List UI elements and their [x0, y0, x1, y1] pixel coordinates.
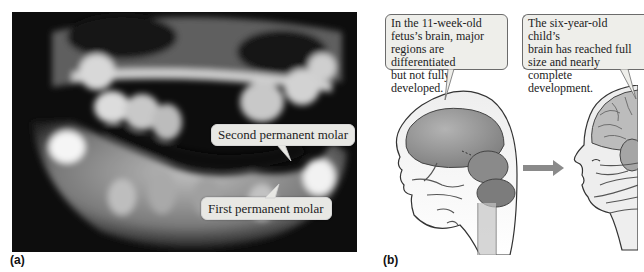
callout-label: Second permanent molar — [218, 127, 348, 142]
callout-pointer-fetus — [444, 69, 458, 101]
child-head-illustration — [570, 85, 638, 255]
panel-a-label: (a) — [10, 253, 25, 267]
panel-a: Second permanent molar First permanent m… — [0, 0, 370, 272]
callout-second-permanent-molar: Second permanent molar — [211, 124, 355, 146]
callout-label: In the 11-week-old fetus’s brain, major … — [391, 16, 484, 95]
callout-pointer-second-molar — [275, 145, 295, 163]
right-arrow-icon — [523, 160, 565, 176]
fetus-head-illustration — [392, 85, 532, 255]
callout-label: First permanent molar — [208, 201, 324, 216]
panel-b: In the 11-week-old fetus’s brain, major … — [370, 0, 638, 272]
callout-child-brain: The six-year-old child’s brain has reach… — [522, 14, 644, 70]
callout-label: The six-year-old child’s brain has reach… — [528, 16, 632, 95]
callout-pointer-first-molar — [263, 184, 283, 199]
callout-pointer-child — [618, 69, 638, 101]
callout-fetus-brain: In the 11-week-old fetus’s brain, major … — [385, 14, 508, 70]
panel-b-label: (b) — [383, 253, 398, 267]
callout-first-permanent-molar: First permanent molar — [201, 197, 332, 220]
